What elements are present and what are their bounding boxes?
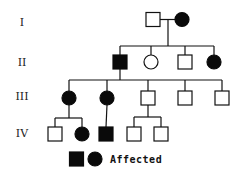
legend-circle-icon — [88, 152, 102, 166]
legend-symbols — [70, 152, 103, 166]
pedigree-diagram: IIIIIIIV Affected — [0, 0, 240, 178]
unaffected-female-circle-icon — [144, 55, 158, 69]
unaffected-male-square-icon — [215, 91, 229, 105]
generation-label: III — [15, 90, 28, 103]
unaffected-male-square-icon — [154, 127, 168, 141]
generation-label: II — [18, 56, 27, 69]
individuals — [48, 13, 229, 142]
unaffected-male-square-icon — [127, 127, 141, 141]
unaffected-male-square-icon — [141, 91, 155, 105]
pedigree-line — [106, 105, 107, 127]
legend-label: Affected — [110, 154, 162, 165]
unaffected-male-square-icon — [146, 13, 160, 27]
affected-female-circle-icon — [175, 13, 189, 27]
affected-female-circle-icon — [62, 91, 76, 105]
unaffected-male-square-icon — [178, 91, 192, 105]
generation-labels: IIIIIIIV — [15, 16, 29, 140]
affected-female-circle-icon — [100, 91, 114, 105]
generation-label: I — [20, 16, 24, 29]
affected-male-square-icon — [113, 55, 127, 69]
unaffected-male-square-icon — [48, 127, 62, 141]
affected-female-circle-icon — [207, 55, 221, 69]
legend: Affected — [70, 152, 163, 166]
affected-female-circle-icon — [75, 127, 89, 141]
generation-label: IV — [16, 127, 29, 140]
relationship-lines — [55, 20, 222, 128]
unaffected-male-square-icon — [178, 55, 192, 69]
legend-square-icon — [70, 152, 84, 166]
affected-male-square-icon — [99, 127, 113, 141]
